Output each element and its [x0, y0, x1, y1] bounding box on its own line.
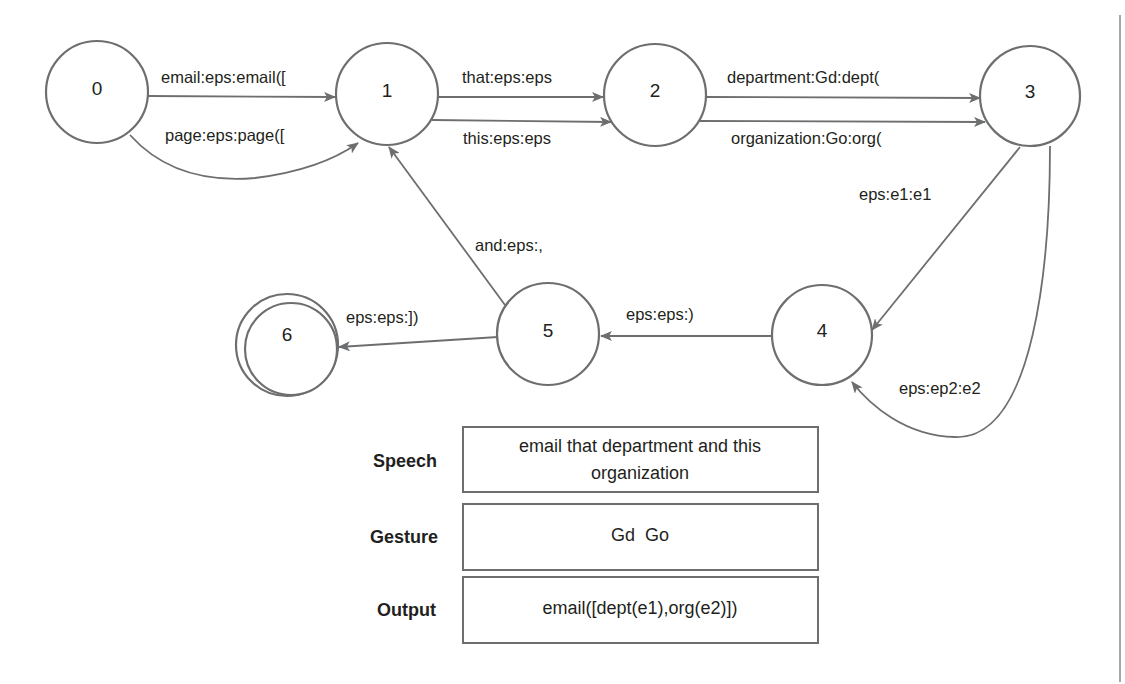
arrow-icon — [706, 97, 980, 98]
edge-label: page:eps:page([ — [165, 126, 285, 144]
transition-1-2-this: this:eps:eps — [432, 120, 611, 147]
transition-5-1: and:eps:, — [389, 147, 543, 305]
transition-2-3-organization: organization:Go:org( — [700, 121, 985, 147]
example-row-output: Output email([dept(e1),org(e2)]) — [377, 577, 818, 643]
arrow-icon — [148, 96, 335, 97]
transition-3-4-e1: eps:e1:e1 — [859, 147, 1020, 330]
row-label: Gesture — [370, 527, 438, 547]
transition-2-3-department: department:Gd:dept( — [706, 68, 980, 98]
transition-0-1-email: email:eps:email([ — [148, 68, 335, 97]
speech-text-line-1: email that department and this — [519, 436, 761, 456]
example-row-speech: Speech email that department and this or… — [373, 427, 818, 492]
transition-4-5: eps:eps:) — [601, 305, 773, 336]
arrow-icon — [339, 337, 498, 347]
edge-label: eps:eps:]) — [346, 308, 418, 326]
state-label: 5 — [543, 320, 554, 341]
state-5: 5 — [497, 283, 599, 385]
row-label: Speech — [373, 451, 437, 471]
arrow-icon — [872, 147, 1020, 330]
state-0: 0 — [46, 41, 148, 143]
state-6-final: 6 — [236, 294, 338, 396]
transition-5-6: eps:eps:]) — [339, 308, 498, 347]
edge-label: organization:Go:org( — [731, 129, 882, 147]
state-label: 1 — [382, 80, 393, 101]
state-label: 6 — [282, 324, 293, 345]
state-label: 3 — [1025, 81, 1036, 102]
row-label: Output — [377, 600, 436, 620]
edge-label: and:eps:, — [475, 236, 543, 254]
edge-label: this:eps:eps — [463, 129, 551, 147]
state-4: 4 — [772, 285, 872, 385]
transition-0-1-page: page:eps:page([ — [130, 126, 358, 179]
edge-label: eps:ep2:e2 — [899, 379, 981, 397]
example-row-gesture: Gesture Gd Go — [370, 504, 818, 570]
state-label: 2 — [650, 80, 661, 101]
fst-diagram: email:eps:email([ page:eps:page([ that:e… — [0, 0, 1125, 684]
state-label: 4 — [817, 320, 828, 341]
state-label: 0 — [92, 78, 103, 99]
arrow-icon — [432, 120, 611, 122]
edge-label: department:Gd:dept( — [727, 68, 880, 86]
state-2: 2 — [604, 44, 706, 146]
gesture-text: Gd Go — [611, 525, 669, 545]
transition-1-2-that: that:eps:eps — [438, 68, 603, 97]
edge-label: email:eps:email([ — [161, 68, 286, 86]
arrow-icon — [700, 121, 985, 122]
edge-label: eps:e1:e1 — [859, 185, 931, 203]
edge-label: eps:eps:) — [626, 305, 694, 323]
state-1: 1 — [336, 43, 438, 145]
arrow-icon — [389, 147, 505, 305]
output-text: email([dept(e1),org(e2)]) — [542, 598, 737, 618]
speech-text-line-2: organization — [591, 463, 689, 483]
edge-label: that:eps:eps — [462, 68, 552, 86]
state-3: 3 — [980, 46, 1080, 146]
